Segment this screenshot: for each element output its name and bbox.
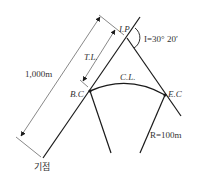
tangent-length-label: T.L. bbox=[84, 52, 98, 62]
radius-label: R=100m bbox=[150, 130, 182, 140]
curve-diagram: I.P I=30° 20′ T.L. C.L. B.C E.C R=100m 1… bbox=[0, 0, 197, 179]
curve-length-label: C.L. bbox=[120, 72, 136, 82]
ext-line-origin bbox=[16, 137, 41, 157]
angle-arc bbox=[134, 28, 140, 48]
bc-label: B.C bbox=[70, 89, 85, 99]
distance-label: 1,000m bbox=[25, 69, 52, 79]
bc-point bbox=[88, 89, 91, 92]
ec-point bbox=[163, 93, 166, 96]
radius-line-bc bbox=[90, 91, 111, 153]
radius-line-ec bbox=[140, 95, 165, 153]
curve-arc bbox=[90, 83, 165, 95]
back-tangent-line bbox=[43, 17, 140, 158]
intersection-angle-label: I=30° 20′ bbox=[144, 34, 178, 44]
origin-label: 기점 bbox=[34, 161, 50, 172]
ec-label: E.C bbox=[167, 89, 183, 99]
ext-line-bc bbox=[80, 80, 88, 87]
ip-label: I.P bbox=[118, 24, 130, 34]
